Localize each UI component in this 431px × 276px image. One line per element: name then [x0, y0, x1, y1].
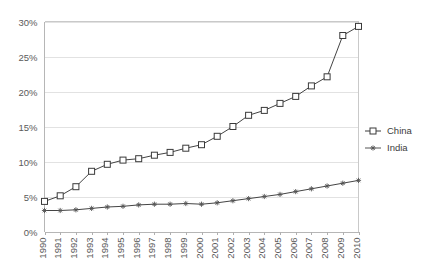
- data-point-china-2007: [308, 83, 314, 89]
- x-axis-tick-label: 1996: [131, 238, 142, 259]
- y-axis-tick-label: 25%: [18, 52, 38, 63]
- data-point-india-2000: [199, 202, 204, 207]
- data-point-china-2000: [199, 142, 205, 148]
- data-point-china-2009: [340, 33, 346, 39]
- series-line-china: [45, 26, 359, 201]
- data-point-india-2010: [356, 178, 361, 183]
- x-axis-tick-label: 1999: [178, 238, 189, 259]
- x-axis-tick-label: 1991: [52, 238, 63, 259]
- legend-label-china: China: [387, 125, 413, 136]
- data-point-china-1999: [183, 145, 189, 151]
- marker-square: [151, 152, 157, 158]
- data-point-india-1992: [73, 207, 78, 212]
- marker-square: [104, 161, 110, 167]
- data-point-india-2006: [293, 189, 298, 194]
- marker-square: [214, 133, 220, 139]
- legend-marker-square: [370, 128, 376, 134]
- marker-square: [340, 33, 346, 39]
- marker-square: [89, 168, 95, 174]
- data-point-india-1991: [58, 208, 63, 213]
- marker-square: [293, 93, 299, 99]
- marker-square: [183, 145, 189, 151]
- marker-square: [199, 142, 205, 148]
- x-axis-tick-label: 2005: [272, 238, 283, 259]
- legend-label-india: India: [387, 142, 408, 153]
- data-point-india-2007: [309, 186, 314, 191]
- data-point-china-2003: [246, 112, 252, 118]
- data-point-china-1990: [42, 198, 48, 204]
- marker-square: [230, 124, 236, 130]
- data-point-china-2001: [214, 133, 220, 139]
- data-point-china-2004: [261, 107, 267, 113]
- data-point-china-2010: [356, 23, 362, 29]
- marker-square: [73, 184, 79, 190]
- y-axis-tick-label: 5%: [24, 192, 38, 203]
- y-axis-tick-label: 0%: [24, 227, 38, 238]
- data-point-china-1995: [120, 157, 126, 163]
- marker-square: [136, 156, 142, 162]
- marker-square: [261, 107, 267, 113]
- marker-square: [246, 112, 252, 118]
- x-axis-tick-label: 1994: [99, 238, 110, 259]
- data-point-india-1996: [136, 202, 141, 207]
- x-axis-tick-label: 2000: [194, 238, 205, 259]
- x-axis-tick-label: 1998: [162, 238, 173, 259]
- data-point-india-2003: [246, 196, 251, 201]
- marker-square: [308, 83, 314, 89]
- x-axis-tick-label: 2004: [256, 238, 267, 259]
- line-chart: 0%5%10%15%20%25%30%199019911992199319941…: [0, 0, 431, 276]
- x-axis-tick-label: 1993: [84, 238, 95, 259]
- data-point-china-1994: [104, 161, 110, 167]
- y-axis-tick-label: 20%: [18, 87, 38, 98]
- y-axis-tick-label: 30%: [18, 17, 38, 28]
- data-point-china-2008: [324, 74, 330, 80]
- x-axis-tick-label: 2001: [209, 238, 220, 259]
- x-axis-tick-label: 2007: [303, 238, 314, 259]
- data-point-china-2002: [230, 124, 236, 130]
- marker-square: [120, 157, 126, 163]
- x-axis-tick-label: 1997: [146, 238, 157, 259]
- data-point-india-1997: [152, 202, 157, 207]
- marker-square: [42, 198, 48, 204]
- marker-square: [356, 23, 362, 29]
- data-point-india-2004: [262, 194, 267, 199]
- data-point-india-1999: [183, 201, 188, 206]
- marker-square: [324, 74, 330, 80]
- x-axis-tick-label: 2002: [225, 238, 236, 259]
- marker-square: [57, 193, 63, 199]
- marker-square: [167, 149, 173, 155]
- x-axis-tick-label: 2010: [351, 238, 362, 259]
- data-point-india-2001: [215, 200, 220, 205]
- data-point-india-1993: [89, 206, 94, 211]
- marker-square: [277, 100, 283, 106]
- data-point-china-1996: [136, 156, 142, 162]
- x-axis-tick-label: 2008: [319, 238, 330, 259]
- data-point-india-2009: [340, 181, 345, 186]
- data-point-india-1995: [120, 204, 125, 209]
- y-axis-tick-label: 15%: [18, 122, 38, 133]
- chart-container: 0%5%10%15%20%25%30%199019911992199319941…: [0, 0, 431, 276]
- x-axis-tick-label: 1992: [68, 238, 79, 259]
- data-point-china-1992: [73, 184, 79, 190]
- data-point-india-1994: [105, 204, 110, 209]
- x-axis-tick-label: 2003: [241, 238, 252, 259]
- x-axis-tick-label: 2006: [288, 238, 299, 259]
- data-point-india-1998: [168, 202, 173, 207]
- y-axis-tick-label: 10%: [18, 157, 38, 168]
- x-axis-tick-label: 1995: [115, 238, 126, 259]
- data-point-china-2005: [277, 100, 283, 106]
- x-axis-tick-label: 1990: [37, 238, 48, 259]
- x-axis-tick-label: 2009: [335, 238, 346, 259]
- data-point-china-1997: [151, 152, 157, 158]
- data-point-india-2005: [277, 192, 282, 197]
- data-point-india-2008: [325, 183, 330, 188]
- data-point-china-1993: [89, 168, 95, 174]
- data-point-china-1991: [57, 193, 63, 199]
- data-point-india-2002: [230, 198, 235, 203]
- data-point-india-1990: [42, 208, 47, 213]
- data-point-china-1998: [167, 149, 173, 155]
- data-point-china-2006: [293, 93, 299, 99]
